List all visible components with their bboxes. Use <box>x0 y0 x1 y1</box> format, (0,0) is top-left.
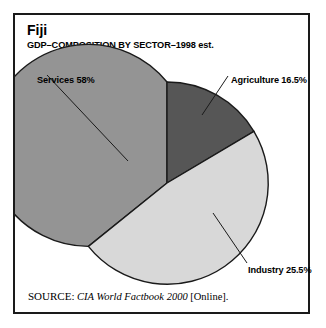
source-note: SOURCE: CIA World Factbook 2000 [Online]… <box>28 290 228 302</box>
chart-figure: Fiji GDP–COMPOSITION BY SECTOR–1998 est.… <box>13 13 310 314</box>
source-label: SOURCE: <box>28 290 74 302</box>
pie-label-industry: Industry 25.5% <box>248 265 311 275</box>
source-work-title: CIA World Factbook 2000 <box>77 291 188 302</box>
pie-label-services: Services 58% <box>37 75 95 85</box>
source-suffix: [Online]. <box>190 291 228 302</box>
pie-label-agriculture: Agriculture 16.5% <box>231 75 307 85</box>
